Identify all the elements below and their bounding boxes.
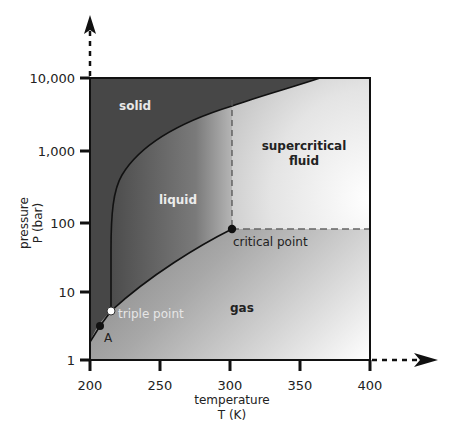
y-tick-label: 10,000 <box>30 71 76 86</box>
x-tick-label: 250 <box>148 378 173 393</box>
y-axis-label-unit: P (bar) <box>31 203 45 243</box>
point-a-label: A <box>104 331 113 345</box>
y-tick-label: 100 <box>50 216 75 231</box>
x-tick-label: 300 <box>218 378 243 393</box>
critical-point-label: critical point <box>233 235 308 249</box>
y-tick-label: 1 <box>67 353 75 368</box>
liquid-label: liquid <box>159 193 197 207</box>
x-axis-label-unit: T (K) <box>217 408 246 422</box>
critical-point-marker <box>228 225 236 233</box>
x-tick-label: 200 <box>78 378 103 393</box>
supercritical-label: supercritical <box>262 139 347 153</box>
triple-point-marker <box>107 307 115 315</box>
x-axis-label: temperature <box>194 393 269 407</box>
y-axis-ticks <box>80 78 90 360</box>
y-tick-label: 10 <box>58 285 75 300</box>
point-a-marker <box>96 322 104 330</box>
gas-label: gas <box>230 301 254 315</box>
solid-label: solid <box>119 99 151 113</box>
x-axis-ticks <box>90 360 370 371</box>
x-tick-label: 350 <box>288 378 313 393</box>
y-axis-label: pressure <box>17 197 31 249</box>
x-axis-arrowhead-icon <box>414 353 438 367</box>
x-tick-label: 400 <box>358 378 383 393</box>
supercritical-label-line2: fluid <box>289 154 319 168</box>
y-tick-label: 1,000 <box>38 144 75 159</box>
triple-point-label: triple point <box>118 307 184 321</box>
phase-diagram-chart: 10,000 1,000 100 10 1 200 250 300 350 40… <box>0 0 452 434</box>
